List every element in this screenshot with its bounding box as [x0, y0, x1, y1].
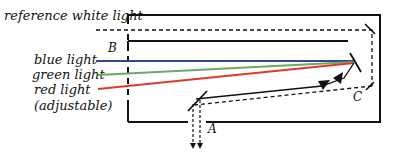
mirror-c	[366, 82, 374, 90]
green-beam	[98, 62, 354, 75]
label-adjustable: (adjustable)	[34, 98, 112, 113]
colorimeter-diagram: reference white light blue light green l…	[0, 0, 395, 153]
output-beams	[193, 100, 200, 146]
label-red-light: red light	[34, 82, 91, 97]
output-arrow-2-icon	[197, 143, 203, 149]
prism-icon-2	[333, 72, 343, 84]
partition-b	[128, 41, 348, 49]
label-reference-white-light: reference white light	[4, 8, 144, 23]
outer-enclosure	[128, 15, 380, 122]
prism-icon-1	[318, 80, 330, 90]
mirror-a	[188, 91, 207, 111]
output-arrow-1-icon	[190, 143, 196, 149]
label-point-b: B	[107, 41, 117, 55]
mirror-top-right	[365, 24, 375, 34]
label-point-c: C	[353, 90, 362, 104]
label-green-light: green light	[32, 67, 105, 82]
red-beam	[98, 63, 354, 89]
label-point-a: A	[207, 122, 217, 136]
label-blue-light: blue light	[34, 52, 98, 67]
